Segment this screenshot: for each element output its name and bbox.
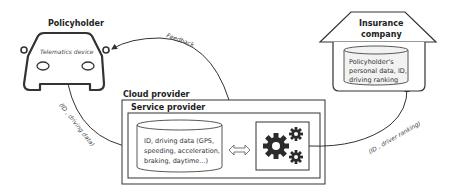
- feedback-label: Feedback: [166, 31, 196, 48]
- telematics-device-label: Telematics device: [40, 48, 94, 55]
- insurer-title-line2: company: [361, 30, 402, 39]
- driver-ranking-label: (ID , driver ranking): [367, 119, 422, 155]
- insurer-database-line: driving ranking: [349, 76, 398, 84]
- car-icon: [21, 33, 109, 90]
- service-provider-title: Service provider: [131, 103, 205, 112]
- insurer-title-line1: Insurance: [359, 19, 404, 28]
- diagram-canvas: Policyholder Telematics device Cloud pro…: [0, 0, 458, 195]
- insurer-database-line: Policyholder's: [349, 58, 394, 66]
- insurer-database-line: personal data, ID,: [349, 67, 407, 75]
- database-line: ID, driving data (GPS,: [144, 137, 214, 145]
- database-line: braking, daytime...): [144, 157, 208, 165]
- policyholder-title: Policyholder: [48, 19, 104, 28]
- database-line: speeding, acceleration,: [144, 147, 220, 155]
- cloud-provider-title: Cloud provider: [123, 90, 190, 99]
